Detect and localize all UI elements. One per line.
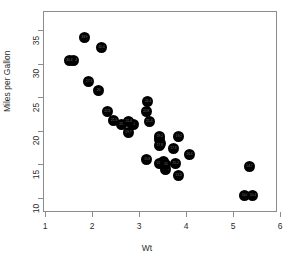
x-axis-tick xyxy=(92,212,93,217)
x-axis-label: Wt xyxy=(0,243,294,253)
x-axis-tick-label: 4 xyxy=(176,221,196,231)
y-axis-tick-label: 35 xyxy=(31,30,42,50)
y-axis-label: Miles per Gallon xyxy=(2,51,12,112)
x-axis-tick-label: 6 xyxy=(270,221,290,231)
y-axis-tick-label: 30 xyxy=(31,64,42,84)
x-axis-tick xyxy=(45,212,46,217)
plot-frame xyxy=(43,11,277,212)
y-axis-tick-label: 25 xyxy=(31,97,42,117)
x-axis-tick xyxy=(280,212,281,217)
scatter-plot-figure: 212122.821.418.718.114.324.422.819.217.8… xyxy=(0,0,294,264)
x-axis-tick xyxy=(139,212,140,217)
x-axis-tick-label: 5 xyxy=(223,221,243,231)
x-axis-tick xyxy=(233,212,234,217)
y-axis-tick-label: 20 xyxy=(31,131,42,151)
x-axis-tick xyxy=(186,212,187,217)
x-axis-tick-label: 1 xyxy=(35,221,55,231)
x-axis-tick-label: 2 xyxy=(82,221,102,231)
x-axis-tick-label: 3 xyxy=(129,221,149,231)
y-axis-tick-label: 10 xyxy=(31,198,42,218)
y-axis-tick-label: 15 xyxy=(31,164,42,184)
